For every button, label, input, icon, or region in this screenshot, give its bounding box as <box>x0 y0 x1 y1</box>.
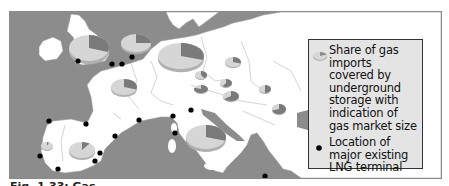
legend-box: Share of gas imports covered by undergro… <box>308 39 423 169</box>
lng-terminal-dot <box>170 113 175 118</box>
pie-marker-ukraine-west <box>259 85 271 94</box>
legend-label-terminal: Location of major existing LNG terminal <box>329 136 418 174</box>
legend-item-pie: Share of gas imports covered by undergro… <box>313 44 418 132</box>
map-frame: Share of gas imports covered by undergro… <box>9 11 442 179</box>
lng-terminal-dot <box>92 158 97 163</box>
lng-terminal-dot <box>119 61 124 66</box>
lng-terminal-dot <box>37 153 42 158</box>
lng-terminal-dot <box>97 150 102 155</box>
pie-marker-austria <box>194 85 208 94</box>
pie-marker-hungary <box>223 91 239 102</box>
pie-marker-france <box>111 79 137 97</box>
pie-marker-slovakia <box>220 79 232 88</box>
pie-marker-germany <box>158 43 204 72</box>
lng-terminal-dot <box>83 121 88 126</box>
lng-terminal-dot-icon <box>313 138 329 157</box>
lng-terminal-dot <box>188 107 193 112</box>
pie-marker-czech <box>195 71 207 80</box>
sicily-land <box>204 162 220 170</box>
lng-terminal-dot <box>129 54 134 59</box>
pie-marker-portugal <box>41 142 53 151</box>
lng-terminal-dot <box>46 118 51 123</box>
figure-caption: Fig. 1.33: Gas <box>10 180 96 186</box>
pie-marker-uk <box>69 35 109 64</box>
lng-terminal-dot <box>112 133 117 138</box>
sardinia-land <box>168 139 176 153</box>
pie-marker-poland <box>225 57 241 68</box>
pie-marker-italy <box>186 125 226 152</box>
pie-marker-netherlands <box>121 34 151 54</box>
pie-marker-romania <box>272 104 286 115</box>
legend-item-terminal: Location of major existing LNG terminal <box>313 136 418 174</box>
legend-label-pie: Share of gas imports covered by undergro… <box>329 44 418 132</box>
pie-chart-icon <box>313 46 329 65</box>
lng-terminal-dot <box>109 61 114 66</box>
lng-terminal-dot <box>136 117 141 122</box>
lng-terminal-dot <box>172 130 177 135</box>
lng-terminal-dot <box>55 166 60 171</box>
pie-marker-spain <box>69 142 95 160</box>
lng-terminal-dot <box>75 58 80 63</box>
